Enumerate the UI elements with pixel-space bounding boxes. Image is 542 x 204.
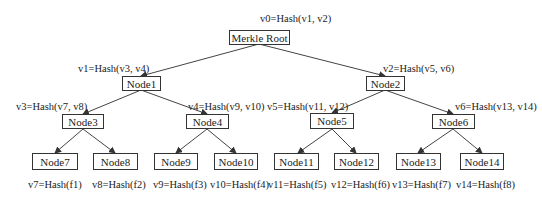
edge-node1-node3 [83, 90, 141, 114]
node8-hash-label: v8=Hash(f2) [92, 179, 146, 191]
edge-node6-node13 [418, 129, 453, 153]
node9-hash-label: v9=Hash(f3) [153, 179, 207, 191]
edge-node6-node14 [453, 129, 482, 153]
merkle-root-node: Merkle Root [229, 30, 290, 45]
node13-hash-label: v13=Hash(f7) [392, 179, 451, 191]
edge-node3-node7 [55, 129, 83, 153]
node1: Node1 [122, 76, 161, 91]
node6-hash-label: v6=Hash(v13, v14) [455, 101, 537, 113]
node7-hash-label: v7=Hash(f1) [28, 179, 82, 191]
node3-hash-label: v3=Hash(v7, v8) [16, 101, 87, 113]
edge-root-node2 [259, 44, 385, 76]
root-hash-label: v0=Hash(v1, v2) [260, 13, 331, 25]
node1-hash-label: v1=Hash(v3, v4) [78, 63, 149, 75]
merkle-tree-diagram: v0=Hash(v1, v2) Merkle Root v1=Hash(v3, … [0, 0, 542, 204]
node2-hash-label: v2=Hash(v5, v6) [383, 63, 454, 75]
node6: Node6 [432, 114, 475, 129]
edge-root-node1 [141, 44, 259, 76]
edge-node4-node10 [207, 129, 236, 153]
node12: Node12 [334, 153, 379, 170]
edge-node3-node8 [83, 129, 115, 153]
edge-node5-node11 [298, 129, 332, 153]
node4-hash-label: v4=Hash(v9, v10) [188, 101, 265, 113]
node7: Node7 [32, 153, 78, 170]
node3: Node3 [62, 114, 104, 129]
edge-node2-node6 [385, 90, 453, 114]
node14-hash-label: v14=Hash(f8) [456, 179, 515, 191]
node12-hash-label: v12=Hash(f6) [331, 179, 390, 191]
edge-node5-node12 [332, 129, 356, 153]
node10: Node10 [214, 153, 258, 170]
node4: Node4 [186, 114, 229, 129]
node13: Node13 [396, 153, 441, 170]
node5: Node5 [310, 113, 354, 129]
node2: Node2 [366, 76, 405, 91]
node14: Node14 [460, 153, 504, 170]
node11: Node11 [274, 153, 319, 170]
node10-hash-label: v10=Hash(f4) [210, 179, 269, 191]
edge-node4-node9 [176, 129, 207, 153]
node11-hash-label: v11=Hash(f5) [268, 179, 327, 191]
node5-hash-label: v5=Hash(v11, v12) [267, 101, 348, 113]
node9: Node9 [154, 153, 198, 170]
node8: Node8 [93, 153, 138, 170]
